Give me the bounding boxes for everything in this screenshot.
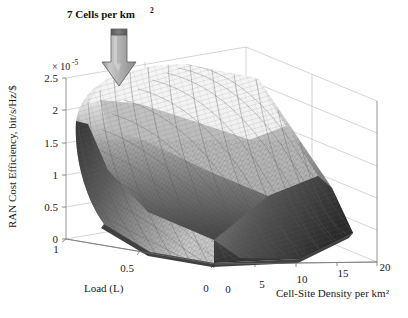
annotation-label: 7 Cells per km [67, 8, 135, 20]
z-exponent-prefix: × 10 [52, 61, 70, 72]
z-tick-2.5: 2.5 [44, 72, 58, 84]
figure-3d-surface-plot: 2.5 2 1.5 1 0.5 0 × 10 -5 RAN Cost Effic… [0, 0, 408, 318]
y-axis-title: Cell-Site Density per km² [276, 287, 390, 299]
y-tick-10: 10 [297, 273, 309, 285]
z-tick-2: 2 [53, 104, 59, 116]
surface-mesh [60, 55, 370, 270]
y-tick-5: 5 [259, 278, 265, 290]
z-axis-exponent: × 10 -5 [52, 58, 78, 72]
z-tick-1: 1 [53, 169, 59, 181]
z-axis-title: RAN Cost Efficiency, bit/s/Hz/$ [6, 85, 18, 228]
x-tick-0.5: 0.5 [120, 262, 134, 274]
y-axis-title-group: Cell-Site Density per km² [276, 287, 390, 299]
plot-canvas: 2.5 2 1.5 1 0.5 0 × 10 -5 RAN Cost Effic… [0, 0, 408, 318]
y-tick-15: 15 [338, 267, 350, 279]
ticks-z-axis [62, 78, 66, 239]
annotation-label-superscript: 2 [150, 6, 154, 15]
x-tick-1: 1 [53, 243, 59, 255]
surface-mesh-lines [60, 55, 370, 270]
z-tick-labels: 2.5 2 1.5 1 0.5 0 [44, 72, 58, 245]
z-tick-0.5: 0.5 [44, 201, 58, 213]
x-tick-0: 0 [203, 282, 209, 294]
z-exponent-power: -5 [72, 58, 78, 67]
z-tick-1.5: 1.5 [44, 137, 58, 149]
y-tick-0: 0 [225, 283, 231, 295]
x-axis-title: Load (L) [84, 282, 124, 295]
y-tick-20: 20 [380, 261, 392, 273]
